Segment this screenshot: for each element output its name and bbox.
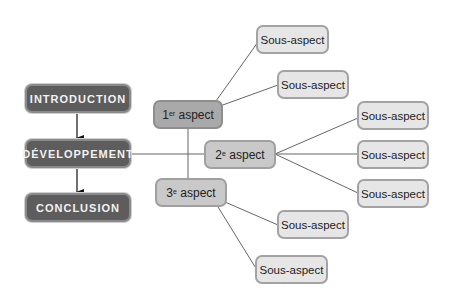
developpement-label: DÉVELOPPEMENT	[22, 148, 133, 160]
aspect-2-sup: e	[222, 150, 226, 157]
sub-aspect-7: Sous-aspect	[255, 255, 328, 284]
sub-aspect-1: Sous-aspect	[256, 25, 329, 54]
aspect-2-label: aspect	[229, 148, 264, 162]
line-aspect3-sub7	[218, 207, 257, 270]
sub-aspect-6: Sous-aspect	[277, 210, 349, 239]
conclusion-label: CONCLUSION	[36, 202, 120, 214]
line-aspect3-sub6	[225, 202, 278, 225]
sub-aspect-1-label: Sous-aspect	[261, 34, 325, 46]
line-aspect2-sub5	[275, 154, 358, 193]
aspect-3-label: aspect	[180, 186, 215, 200]
aspect-3-sup: e	[173, 188, 177, 195]
aspect-1-label: aspect	[178, 108, 213, 122]
sub-aspect-7-label: Sous-aspect	[260, 264, 324, 276]
aspect-3-num: 3	[166, 186, 173, 200]
aspect-1-box: 1er aspect	[153, 100, 223, 129]
sub-aspect-5-label: Sous-aspect	[361, 188, 425, 200]
aspect-2-num: 2	[215, 148, 222, 162]
sub-aspect-2: Sous-aspect	[277, 70, 349, 99]
sub-aspect-3: Sous-aspect	[357, 101, 429, 130]
introduction-label: INTRODUCTION	[30, 93, 126, 105]
conclusion-box: CONCLUSION	[25, 193, 131, 222]
introduction-box: INTRODUCTION	[25, 84, 131, 113]
sub-aspect-5: Sous-aspect	[357, 179, 429, 208]
line-aspect2-sub3	[275, 118, 358, 154]
developpement-box: DÉVELOPPEMENT	[25, 139, 131, 168]
aspect-1-num: 1	[162, 108, 169, 122]
aspect-3-box: 3e aspect	[155, 178, 227, 207]
line-aspect1-sub1	[216, 42, 258, 101]
sub-aspect-2-label: Sous-aspect	[281, 79, 345, 91]
sub-aspect-6-label: Sous-aspect	[281, 219, 345, 231]
aspect-2-box: 2e aspect	[204, 140, 276, 169]
sub-aspect-3-label: Sous-aspect	[361, 110, 425, 122]
line-aspect1-sub2	[220, 85, 278, 106]
sub-aspect-4-label: Sous-aspect	[361, 149, 425, 161]
sub-aspect-4: Sous-aspect	[357, 140, 429, 169]
aspect-1-sup: er	[169, 110, 175, 117]
